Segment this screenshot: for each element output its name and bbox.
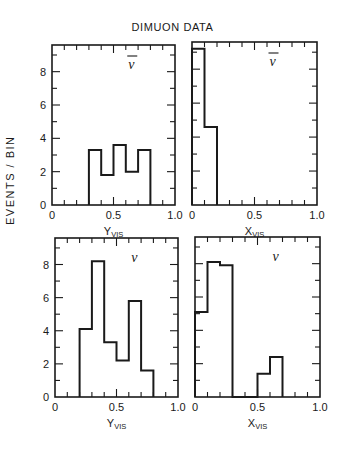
x-tick-label: 0 bbox=[192, 401, 198, 413]
neutrino-label: ν bbox=[128, 57, 135, 72]
x-tick-label: 0 bbox=[49, 209, 55, 221]
x-axis-label: YVIS bbox=[104, 225, 123, 239]
panel-top-right: 00.51.0XVISν bbox=[189, 42, 325, 239]
x-tick-label: 0.5 bbox=[106, 209, 121, 221]
x-axis-label: XVIS bbox=[248, 417, 267, 431]
y-tick-label: 0 bbox=[43, 391, 49, 403]
x-tick-label: 0.5 bbox=[247, 209, 262, 221]
histogram-steps bbox=[89, 145, 150, 205]
y-tick-label: 2 bbox=[40, 166, 46, 178]
plot-frame bbox=[55, 238, 178, 397]
x-tick-label: 1.0 bbox=[312, 401, 327, 413]
y-tick-label: 8 bbox=[40, 66, 46, 78]
y-tick-label: 6 bbox=[43, 292, 49, 304]
x-tick-label: 0 bbox=[52, 401, 58, 413]
histogram-steps bbox=[80, 261, 154, 397]
x-tick-label: 1.0 bbox=[309, 209, 324, 221]
panel-bottom-left: 0246800.51.0YVISν bbox=[43, 238, 186, 431]
y-tick-label: 0 bbox=[40, 199, 46, 211]
neutrino-label: ν bbox=[273, 249, 280, 264]
y-tick-label: 8 bbox=[43, 259, 49, 271]
panel-top-left: 0246800.51.0YVISν bbox=[40, 45, 183, 239]
neutrino-label: ν bbox=[270, 54, 277, 69]
histogram-grid: 0246800.51.0YVISν00.51.0XVISν0246800.51.… bbox=[0, 0, 345, 458]
plot-frame bbox=[192, 42, 317, 205]
plot-frame bbox=[52, 45, 175, 205]
y-tick-label: 4 bbox=[40, 132, 46, 144]
x-tick-label: 1.0 bbox=[170, 401, 185, 413]
y-tick-label: 6 bbox=[40, 99, 46, 111]
x-tick-label: 0.5 bbox=[109, 401, 124, 413]
neutrino-label: ν bbox=[131, 250, 138, 265]
y-tick-label: 2 bbox=[43, 358, 49, 370]
x-tick-label: 0.5 bbox=[250, 401, 265, 413]
x-tick-label: 1.0 bbox=[167, 209, 182, 221]
x-axis-label: YVIS bbox=[107, 417, 126, 431]
panel-bottom-right: 00.51.0XVISν bbox=[192, 237, 328, 431]
y-tick-label: 4 bbox=[43, 325, 49, 337]
x-tick-label: 0 bbox=[189, 209, 195, 221]
histogram-steps bbox=[192, 49, 217, 205]
histogram-steps bbox=[195, 262, 283, 397]
